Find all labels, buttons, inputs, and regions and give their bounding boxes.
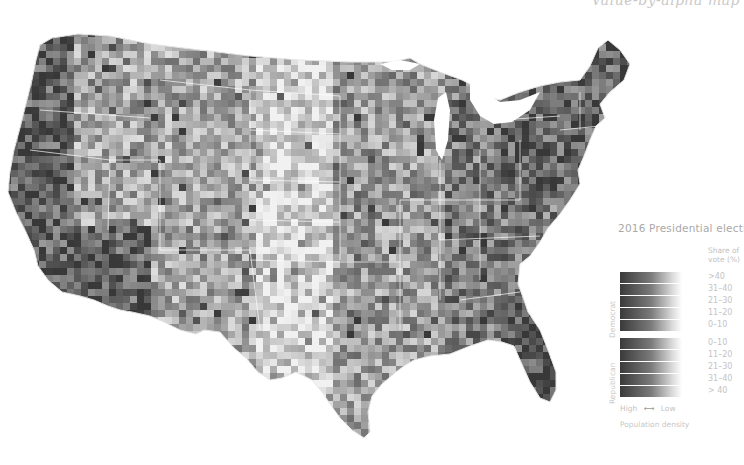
legend-label: 0–10 <box>708 338 727 347</box>
legend-group-democrat: Democrat <box>608 301 617 338</box>
density-scale: High ⟷ Low <box>620 404 676 413</box>
legend-header: Share of vote (%) <box>708 246 744 264</box>
legend-bar-rep-5 <box>620 386 682 397</box>
legend-bar-rep-4 <box>620 374 682 385</box>
legend-bar-rep-3 <box>620 362 682 373</box>
legend-label: >40 <box>708 272 725 281</box>
density-high-label: High <box>620 404 637 413</box>
legend-label: 31–40 <box>708 374 732 383</box>
legend-bar-dem-4 <box>620 308 682 319</box>
density-low-label: Low <box>661 404 676 413</box>
legend-label: 11–20 <box>708 308 732 317</box>
double-arrow-icon: ⟷ <box>644 404 655 413</box>
legend-bar-dem-5 <box>620 320 682 331</box>
legend-label: 21–30 <box>708 362 732 371</box>
legend: 2016 Presidential election Share of vote… <box>612 220 744 420</box>
legend-group-republican: Republican <box>608 363 617 404</box>
legend-label: 31–40 <box>708 284 732 293</box>
legend-title: 2016 Presidential election <box>618 222 744 234</box>
legend-label: 21–30 <box>708 296 732 305</box>
legend-label: > 40 <box>708 386 727 395</box>
legend-bar-rep-1 <box>620 338 682 349</box>
density-caption: Population density <box>620 420 689 429</box>
legend-bar-rep-2 <box>620 350 682 361</box>
legend-bar-dem-2 <box>620 284 682 295</box>
legend-bar-dem-3 <box>620 296 682 307</box>
legend-label: 11–20 <box>708 350 732 359</box>
legend-label: 0–10 <box>708 320 727 329</box>
legend-bar-dem-1 <box>620 272 682 283</box>
